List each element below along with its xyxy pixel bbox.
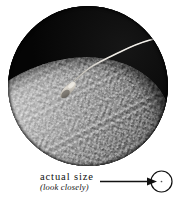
- sperm-head: [58, 80, 79, 101]
- micrograph-disc: [8, 6, 168, 166]
- spermatozoon: [8, 6, 168, 166]
- pointer-graphic: [0, 168, 187, 199]
- actual-size-annotation: actual size (look closely): [0, 168, 187, 199]
- sperm-tail: [74, 36, 168, 81]
- actual-size-dot: [161, 181, 163, 183]
